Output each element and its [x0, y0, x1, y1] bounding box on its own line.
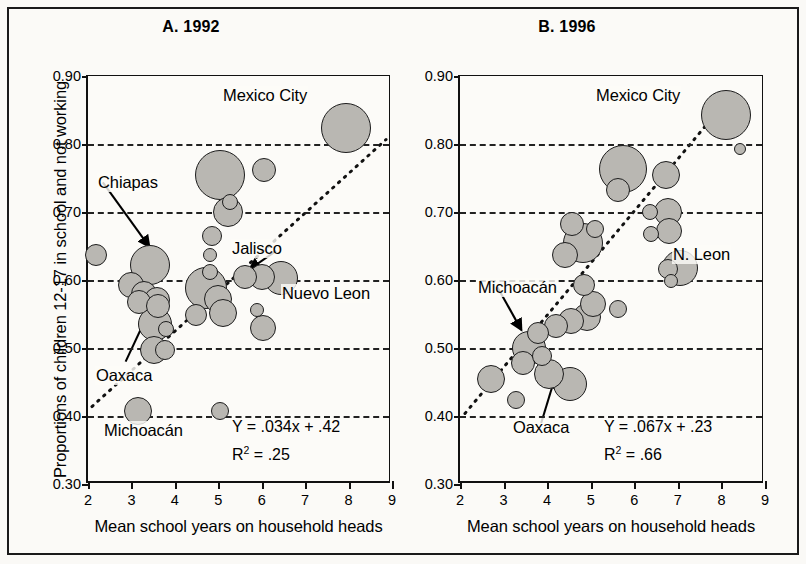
- x-tick-mark: [765, 481, 767, 489]
- bubble-point: [642, 204, 658, 220]
- y-tick-mark: [82, 280, 88, 282]
- y-tick-mark: [82, 348, 88, 350]
- bubble-point: [734, 143, 746, 155]
- bubble-point: [222, 194, 238, 210]
- y-tick-mark: [454, 280, 460, 282]
- x-tick-mark: [721, 481, 723, 489]
- y-tick-label: 0.50: [53, 340, 81, 356]
- x-tick-mark: [262, 481, 264, 489]
- panel-b-title: B. 1996: [350, 18, 784, 36]
- y-tick-label: 0.30: [53, 476, 81, 492]
- x-tick-label: 2: [84, 492, 92, 508]
- panel-a-r2: R2 = .25: [232, 444, 290, 464]
- gridline: [88, 348, 389, 350]
- annotation-mexico-city-b: Mexico City: [595, 86, 681, 105]
- y-tick-mark: [454, 144, 460, 146]
- panel-b: B. 1996 0.300.400.500.600.700.800.902345…: [372, 0, 806, 564]
- bubble-point: [656, 218, 682, 244]
- x-tick-mark: [460, 481, 462, 489]
- x-axis-title: Mean school years on household heads: [467, 517, 755, 536]
- panel-a-r2-prefix: R: [232, 446, 244, 463]
- x-tick-mark: [218, 481, 220, 489]
- x-tick-label: 3: [500, 492, 508, 508]
- bubble-point: [209, 299, 237, 327]
- x-tick-label: 5: [587, 492, 595, 508]
- x-tick-mark: [634, 481, 636, 489]
- annotation-oaxaca-a: Oaxaca: [95, 366, 153, 385]
- panel-a-r2-value: = .25: [249, 446, 289, 463]
- bubble-point: [203, 248, 217, 262]
- panel-b-r2-value: = .66: [621, 446, 661, 463]
- x-tick-mark: [591, 481, 593, 489]
- bubble-point: [233, 265, 257, 289]
- bubble-point: [155, 340, 175, 360]
- annotation-michoacan-b: Michoacán: [477, 278, 558, 297]
- gridline: [460, 212, 762, 214]
- x-tick-label: 6: [630, 492, 638, 508]
- bubble-point: [85, 244, 107, 266]
- bubble-point: [202, 226, 222, 246]
- bubble-point: [664, 274, 678, 288]
- bubble-point: [532, 346, 552, 366]
- x-tick-mark: [305, 481, 307, 489]
- bubble-point: [146, 294, 170, 318]
- bubble-point: [586, 220, 604, 238]
- x-tick-label: 7: [674, 492, 682, 508]
- bubble-mexico-city: [701, 90, 751, 140]
- x-tick-label: 3: [127, 492, 135, 508]
- y-tick-mark: [82, 212, 88, 214]
- bubble-point: [158, 321, 174, 337]
- bubble-point: [202, 264, 218, 280]
- x-tick-label: 7: [301, 492, 309, 508]
- y-tick-label: 0.90: [53, 68, 81, 84]
- bubble-point: [507, 391, 525, 409]
- bubble-point: [652, 161, 680, 189]
- y-tick-mark: [82, 144, 88, 146]
- y-tick-label: 0.30: [425, 476, 453, 492]
- y-tick-label: 0.60: [425, 272, 453, 288]
- bubble-point: [477, 365, 505, 393]
- y-tick-label: 0.70: [425, 204, 453, 220]
- y-tick-label: 0.60: [53, 272, 81, 288]
- x-tick-label: 2: [456, 492, 464, 508]
- bubble-point: [552, 242, 578, 268]
- bubble-nuevo-leon: [250, 315, 276, 341]
- bubble-point: [573, 274, 595, 296]
- x-tick-mark: [131, 481, 133, 489]
- annotation-n-leon-b: N. Leon: [672, 245, 731, 264]
- gridline: [460, 348, 762, 350]
- panel-b-r2-prefix: R: [604, 446, 616, 463]
- x-tick-label: 4: [171, 492, 179, 508]
- annotation-chiapas-a: Chiapas: [97, 173, 159, 192]
- panel-a: A. 1992 0.300.400.500.600.700.800.902345…: [0, 0, 410, 564]
- bubble-point: [211, 402, 229, 420]
- y-tick-mark: [454, 348, 460, 350]
- bubble-point: [609, 300, 627, 318]
- panel-b-equation: Y = .067x + .23: [604, 418, 712, 436]
- x-tick-mark: [678, 481, 680, 489]
- x-tick-label: 4: [543, 492, 551, 508]
- y-tick-mark: [82, 416, 88, 418]
- x-tick-mark: [88, 481, 90, 489]
- gridline: [460, 144, 762, 146]
- bubble-point: [606, 178, 630, 202]
- panel-a-title: A. 1992: [0, 18, 396, 36]
- bubble-point: [185, 304, 207, 326]
- x-tick-label: 8: [345, 492, 353, 508]
- y-tick-label: 0.80: [425, 136, 453, 152]
- y-tick-mark: [82, 76, 88, 78]
- bubble-point: [560, 212, 584, 236]
- annotation-michoacan-a: Michoacán: [103, 421, 184, 440]
- annotation-jalisco-a: Jalisco: [231, 239, 283, 258]
- y-tick-mark: [454, 416, 460, 418]
- panel-a-equation: Y = .034x + .42: [232, 418, 340, 436]
- y-tick-mark: [454, 212, 460, 214]
- figure-root: Proportions of children 12-17 in school …: [0, 0, 806, 564]
- annotation-oaxaca-b: Oaxaca: [512, 418, 570, 437]
- x-tick-mark: [349, 481, 351, 489]
- bubble-point: [643, 226, 659, 242]
- bubble-point: [195, 150, 245, 200]
- bubble-point: [250, 303, 264, 317]
- x-tick-mark: [504, 481, 506, 489]
- annotation-nuevo-leon-a: Nuevo Leon: [281, 284, 371, 303]
